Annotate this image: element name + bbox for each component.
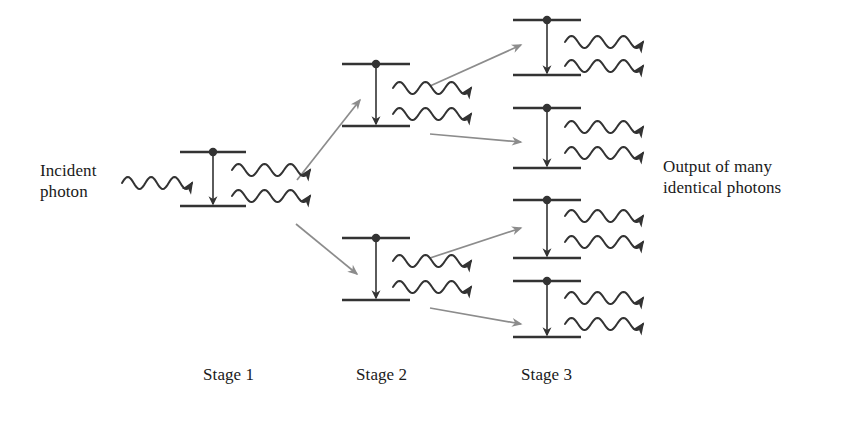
photon-wave-icon	[565, 318, 643, 330]
incident-photon-label: Incident photon	[40, 160, 97, 202]
atom-energy-levels	[513, 104, 581, 168]
photon-wave-icon	[232, 190, 310, 202]
electron-dot-icon	[543, 16, 551, 24]
stage-connector-arrow	[296, 224, 357, 274]
photon-wave-icon	[565, 236, 643, 248]
atom-group-layer	[180, 16, 581, 337]
photon-wave-icon	[393, 281, 471, 293]
photon-wave-icon	[232, 164, 310, 176]
atom-energy-levels	[513, 277, 581, 337]
electron-dot-icon	[372, 60, 380, 68]
stage-connector-arrows	[296, 45, 521, 324]
atom-energy-levels	[180, 148, 246, 206]
electron-dot-icon	[543, 104, 551, 112]
photon-wave-icon	[565, 60, 643, 72]
electron-dot-icon	[543, 277, 551, 285]
photon-wave-icon	[565, 36, 643, 48]
electron-dot-icon	[209, 148, 217, 156]
photon-wave-layer	[122, 36, 643, 330]
photon-wave-icon	[565, 292, 643, 304]
electron-dot-icon	[543, 196, 551, 204]
stage-connector-arrow	[430, 134, 521, 142]
stimulated-emission-diagram: Incident photon Output of many identical…	[0, 0, 849, 422]
atom-energy-levels	[342, 234, 410, 300]
atom-energy-levels	[342, 60, 410, 126]
stage-connector-arrow	[430, 308, 521, 324]
stage-2-label: Stage 2	[356, 364, 407, 385]
photon-wave-icon	[565, 121, 643, 133]
photon-wave-icon	[565, 210, 643, 222]
diagram-canvas	[0, 0, 849, 422]
stage-connector-arrow	[297, 100, 360, 180]
photon-wave-icon	[122, 177, 192, 189]
photon-wave-icon	[565, 147, 643, 159]
stage-3-label: Stage 3	[521, 364, 572, 385]
stage-1-label: Stage 1	[203, 364, 254, 385]
atom-energy-levels	[513, 196, 581, 258]
stage-connector-arrow	[430, 228, 521, 258]
photon-wave-icon	[393, 82, 471, 94]
atom-energy-levels	[513, 16, 581, 75]
stage-connector-arrow	[430, 45, 521, 86]
output-photons-label: Output of many identical photons	[663, 156, 781, 198]
photon-wave-icon	[393, 108, 471, 120]
electron-dot-icon	[372, 234, 380, 242]
